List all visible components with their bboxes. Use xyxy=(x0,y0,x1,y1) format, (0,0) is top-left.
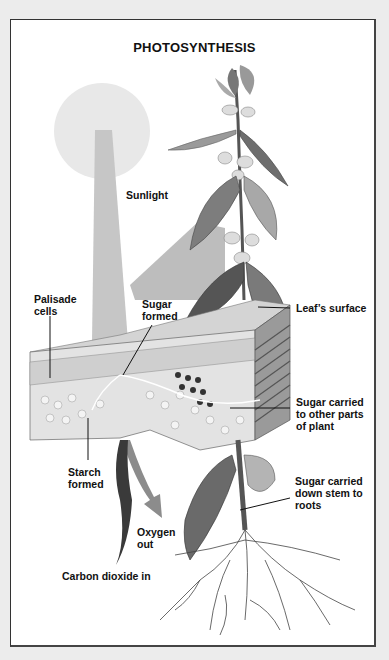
leaf-cross-section xyxy=(30,300,290,450)
label-carbon-dioxide-in: Carbon dioxide in xyxy=(62,570,151,582)
label-leaf-surface: Leaf’s surface xyxy=(296,302,366,314)
label-oxygen-out: Oxygen out xyxy=(137,526,176,550)
label-starch-formed: Starch formed xyxy=(68,466,104,490)
label-sugar-carried-other-parts: Sugar carried to other parts of plant xyxy=(296,396,364,432)
illustration xyxy=(0,0,389,660)
label-sunlight: Sunlight xyxy=(126,189,168,201)
label-sugar-formed: Sugar formed xyxy=(142,298,178,322)
label-palisade-cells: Palisade cells xyxy=(34,293,77,317)
diagram-title: PHOTOSYNTHESIS xyxy=(0,40,389,55)
label-sugar-carried-roots: Sugar carried down stem to roots xyxy=(295,475,363,511)
